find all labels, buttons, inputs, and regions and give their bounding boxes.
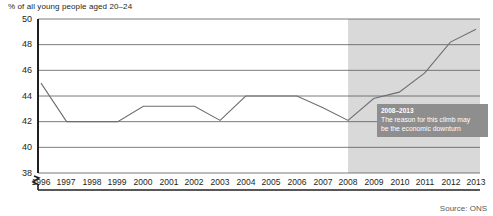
annotation-callout: 2008–2013 The reason for this climb may …: [377, 104, 488, 137]
annotation-line-2: be the economic downturn: [381, 124, 484, 133]
y-tick-50: 50: [14, 14, 32, 24]
y-axis-line: [33, 19, 39, 190]
y-tick-40: 40: [14, 142, 32, 152]
x-tick-2013: 2013: [459, 177, 493, 187]
y-tick-44: 44: [14, 91, 32, 101]
annotation-date-range: 2008–2013: [381, 107, 484, 115]
annotation-line-1: The reason for this climb may: [381, 115, 484, 124]
y-tick-42: 42: [14, 116, 32, 126]
y-tick-46: 46: [14, 65, 32, 75]
source-note: Source: ONS: [440, 204, 487, 213]
line-chart: % of all young people aged 20–24 50 48 4…: [0, 0, 493, 216]
y-tick-48: 48: [14, 39, 32, 49]
